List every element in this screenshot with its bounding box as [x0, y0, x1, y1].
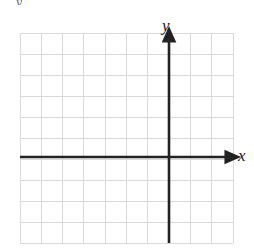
x-axis-label: x [238, 147, 246, 164]
coordinate-plane-figure: y [0, 0, 254, 250]
y-axis-label: y [162, 17, 170, 34]
graph-grid-svg [0, 0, 254, 250]
